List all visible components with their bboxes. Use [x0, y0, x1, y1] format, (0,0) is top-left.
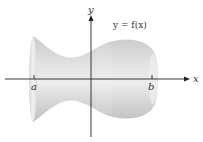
label-b: b: [148, 81, 154, 92]
curve-label: y = f(x): [112, 20, 147, 30]
x-axis-label: x: [193, 73, 199, 84]
label-a: a: [31, 81, 37, 92]
x-axis-arrow-icon: [184, 77, 190, 82]
solid-of-revolution-diagram: x y a b y = f(x): [0, 0, 203, 142]
y-axis-arrow-icon: [89, 15, 94, 21]
diagram-canvas: x y a b y = f(x): [0, 0, 203, 142]
y-axis-label: y: [87, 4, 94, 15]
